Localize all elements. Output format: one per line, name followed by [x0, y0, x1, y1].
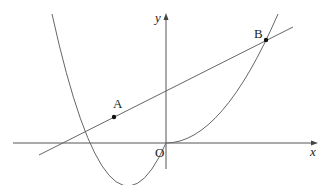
graph-canvas [0, 0, 333, 185]
point-b-label: B [254, 27, 263, 40]
y-axis-arrow-icon [164, 13, 169, 20]
x-axis-label: x [310, 145, 316, 158]
point-a-label: A [113, 97, 122, 110]
origin-label: O [155, 146, 164, 159]
point-b [264, 38, 268, 42]
coordinate-diagram: A B O x y [0, 0, 333, 185]
parabola-curve [52, 14, 278, 185]
point-a [112, 115, 116, 119]
y-axis-label: y [155, 11, 161, 24]
